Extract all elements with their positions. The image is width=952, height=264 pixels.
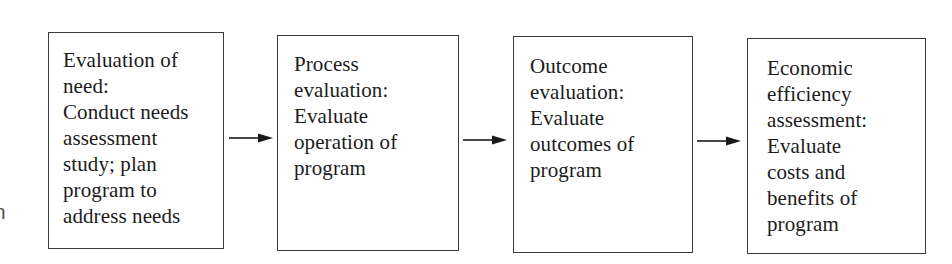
arrow-right-icon xyxy=(696,133,742,149)
arrow-right-icon xyxy=(228,130,274,146)
box-economic-efficiency-assessment-text: Economic efficiency assessment: Evaluate… xyxy=(767,55,867,237)
box-process-evaluation-text: Process evaluation: Evaluate operation o… xyxy=(294,51,397,181)
box-evaluation-of-need-text: Evaluation of need: Conduct needs assess… xyxy=(63,47,189,229)
box-outcome-evaluation-text: Outcome evaluation: Evaluate outcomes of… xyxy=(530,53,634,183)
clipped-text-fragment: n xyxy=(0,200,6,224)
arrow-right-icon xyxy=(462,132,508,148)
